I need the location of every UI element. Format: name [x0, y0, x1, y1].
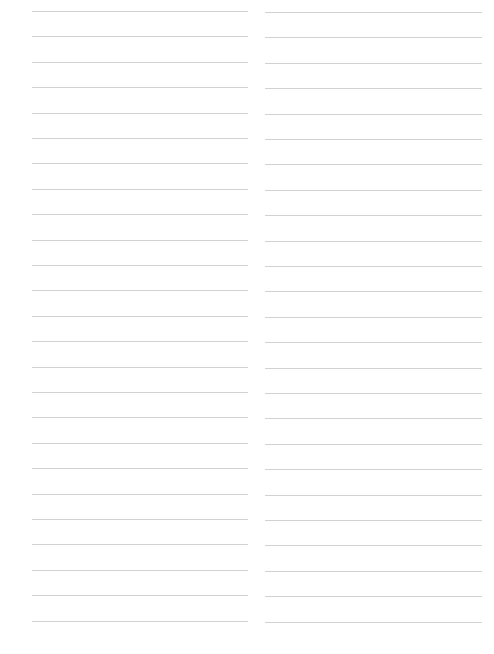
- ruled-page: [0, 0, 494, 654]
- ruled-line: [32, 290, 248, 291]
- ruled-line: [32, 367, 248, 368]
- ruled-line: [32, 36, 248, 37]
- ruled-line: [32, 240, 248, 241]
- ruled-line: [32, 11, 248, 12]
- ruled-line: [265, 63, 482, 64]
- ruled-line: [32, 163, 248, 164]
- ruled-line: [265, 317, 482, 318]
- ruled-line: [265, 495, 482, 496]
- ruled-line: [32, 392, 248, 393]
- ruled-line: [265, 114, 482, 115]
- ruled-line: [265, 444, 482, 445]
- ruled-line: [265, 545, 482, 546]
- right-column: [265, 1, 482, 654]
- ruled-line: [32, 494, 248, 495]
- ruled-line: [265, 241, 482, 242]
- ruled-line: [32, 113, 248, 114]
- ruled-line: [265, 393, 482, 394]
- ruled-line: [265, 418, 482, 419]
- ruled-line: [265, 520, 482, 521]
- ruled-line: [265, 190, 482, 191]
- left-column: [32, 0, 248, 654]
- ruled-line: [265, 469, 482, 470]
- ruled-line: [265, 368, 482, 369]
- ruled-line: [32, 519, 248, 520]
- ruled-line: [265, 291, 482, 292]
- ruled-line: [265, 215, 482, 216]
- ruled-line: [32, 544, 248, 545]
- ruled-line: [32, 138, 248, 139]
- ruled-line: [32, 621, 248, 622]
- ruled-line: [265, 37, 482, 38]
- ruled-line: [32, 265, 248, 266]
- ruled-line: [32, 443, 248, 444]
- ruled-line: [32, 87, 248, 88]
- ruled-line: [32, 570, 248, 571]
- ruled-line: [265, 622, 482, 623]
- ruled-line: [265, 88, 482, 89]
- ruled-line: [32, 468, 248, 469]
- ruled-line: [265, 139, 482, 140]
- ruled-line: [32, 189, 248, 190]
- ruled-line: [32, 62, 248, 63]
- ruled-line: [265, 12, 482, 13]
- ruled-line: [265, 266, 482, 267]
- ruled-line: [32, 595, 248, 596]
- ruled-line: [32, 417, 248, 418]
- ruled-line: [32, 341, 248, 342]
- ruled-line: [265, 164, 482, 165]
- ruled-line: [265, 342, 482, 343]
- ruled-line: [265, 571, 482, 572]
- ruled-line: [265, 596, 482, 597]
- ruled-line: [32, 316, 248, 317]
- ruled-line: [32, 214, 248, 215]
